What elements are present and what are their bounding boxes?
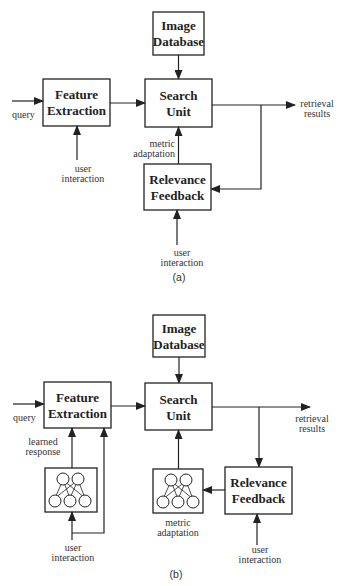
feature-extraction-block: Feature Extraction: [43, 79, 110, 126]
retrieval-label: results: [304, 108, 330, 119]
block-label: Unit: [166, 408, 191, 423]
user-interaction-label: interaction: [239, 554, 282, 565]
block-label: Search: [159, 88, 198, 103]
block-label: Feedback: [151, 188, 205, 203]
user-interaction-label: interaction: [62, 173, 105, 184]
user-interaction-label: interaction: [52, 552, 95, 563]
query-label: query: [12, 109, 35, 120]
block-label: Feedback: [232, 491, 286, 506]
caption-a: (a): [173, 271, 186, 283]
block-label: Image: [161, 18, 196, 33]
block-label: Database: [153, 34, 205, 49]
figure-a: Image Database Feature Extraction Search…: [12, 12, 334, 283]
retrieval-label: results: [299, 423, 325, 434]
image-database-block: Image Database: [153, 315, 205, 357]
user-interaction-label: interaction: [161, 257, 204, 268]
block-label: Relevance: [149, 172, 206, 187]
block-label: Search: [159, 392, 198, 407]
relevance-feedback-block: Relevance Feedback: [144, 164, 211, 210]
image-database-block: Image Database: [153, 12, 205, 55]
retrieval-system-diagram: Image Database Feature Extraction Search…: [0, 0, 338, 586]
block-label: Feature: [55, 87, 98, 102]
neural-network-icon: [45, 468, 97, 512]
block-label: Database: [153, 337, 205, 352]
search-unit-block: Search Unit: [145, 79, 212, 127]
block-label: Feature: [56, 390, 99, 405]
relevance-feedback-block: Relevance Feedback: [225, 467, 292, 514]
block-label: Unit: [166, 104, 191, 119]
learned-response-label: response: [26, 446, 62, 457]
search-unit-block: Search Unit: [145, 383, 212, 430]
query-label: query: [13, 412, 36, 423]
metric-adaptation-label: adaptation: [133, 148, 175, 159]
caption-b: (b): [170, 568, 183, 580]
figure-b: Image Database Feature Extraction Search…: [13, 315, 329, 580]
metric-adaptation-label: adaptation: [157, 527, 199, 538]
block-label: Extraction: [48, 406, 108, 421]
block-label: Extraction: [47, 103, 107, 118]
feature-extraction-block: Feature Extraction: [44, 382, 111, 428]
arrow-results-to-feedback: [211, 105, 261, 189]
block-label: Image: [162, 321, 197, 336]
block-label: Relevance: [230, 475, 287, 490]
neural-network-icon: [153, 469, 203, 513]
